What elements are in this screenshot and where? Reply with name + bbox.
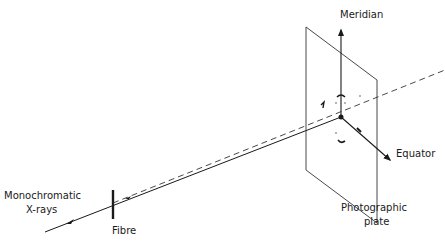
origin-point	[339, 115, 344, 120]
spot-faint-3	[335, 132, 337, 134]
spot-left	[321, 102, 324, 108]
equator-axis	[341, 117, 390, 160]
spot-meridian-lower	[338, 140, 345, 142]
plate-label-line2: plate	[364, 216, 389, 228]
spot-faint-4	[359, 95, 361, 97]
meridian-label: Meridian	[340, 9, 383, 21]
plate-label-line1: Photographic	[341, 202, 407, 214]
fibre-label: Fibre	[112, 225, 136, 237]
spot-faint-1	[335, 102, 337, 104]
source-label-line2: X-rays	[26, 204, 57, 216]
incident-beam	[45, 117, 341, 232]
equator-label: Equator	[396, 148, 435, 160]
source-label-line1: Monochromatic	[4, 190, 81, 202]
diffracted-beam-dashed	[113, 70, 445, 203]
spot-faint-2	[344, 102, 346, 104]
